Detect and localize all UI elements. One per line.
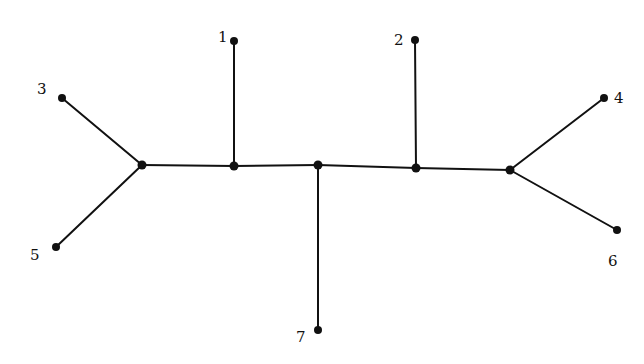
- edge-B-C: [234, 165, 318, 166]
- edge-C-D: [318, 165, 416, 168]
- edge-A-5: [56, 165, 142, 247]
- leaf-label-1: 1: [218, 28, 228, 46]
- leaf-node-1: [230, 37, 238, 45]
- internal-node-B: [230, 162, 239, 171]
- internal-node-C: [314, 161, 323, 170]
- phylogenetic-tree-diagram: 1234567: [0, 0, 644, 364]
- leaf-label-5: 5: [30, 246, 40, 264]
- edge-A-3: [62, 98, 142, 165]
- leaf-node-7: [314, 326, 322, 334]
- leaf-label-6: 6: [608, 252, 618, 270]
- internal-node-D: [412, 164, 421, 173]
- leaf-node-4: [600, 94, 608, 102]
- edge-D-E: [416, 168, 510, 170]
- edge-E-4: [510, 98, 604, 170]
- leaf-label-3: 3: [37, 80, 47, 98]
- leaf-label-7: 7: [296, 328, 306, 346]
- internal-node-E: [506, 166, 515, 175]
- tree-edges: [56, 40, 617, 330]
- edge-E-6: [510, 170, 617, 230]
- leaf-node-2: [411, 36, 419, 44]
- leaf-node-5: [52, 243, 60, 251]
- edge-D-2: [415, 40, 416, 168]
- leaf-node-6: [613, 226, 621, 234]
- edge-A-B: [142, 165, 234, 166]
- internal-node-A: [138, 161, 147, 170]
- leaf-label-2: 2: [394, 31, 404, 49]
- leaf-label-4: 4: [614, 89, 624, 107]
- leaf-node-3: [58, 94, 66, 102]
